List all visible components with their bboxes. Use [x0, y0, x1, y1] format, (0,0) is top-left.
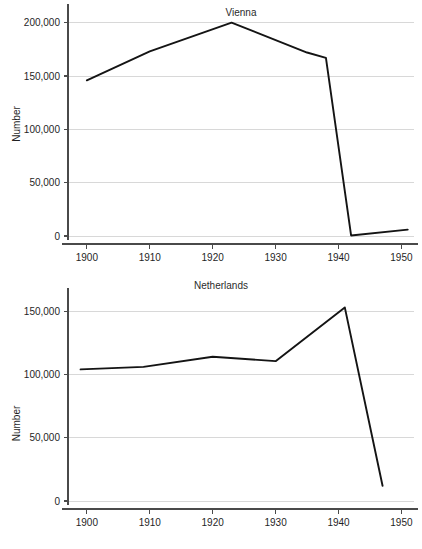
x-tick-label: 1920 — [202, 517, 225, 528]
y-axis-title: Number — [11, 405, 22, 441]
y-tick-label: 150,000 — [24, 306, 61, 317]
y-tick-label: 0 — [54, 231, 60, 242]
chart-panel-vienna: 050,000100,000150,000200,000190019101920… — [0, 0, 422, 275]
x-tick-label: 1900 — [76, 517, 99, 528]
vienna-line-chart: 050,000100,000150,000200,000190019101920… — [0, 0, 422, 275]
x-tick-label: 1920 — [202, 252, 225, 263]
data-line-netherlands — [81, 307, 383, 485]
x-tick-label: 1930 — [264, 252, 287, 263]
x-tick-label: 1900 — [76, 252, 99, 263]
y-tick-label: 100,000 — [24, 124, 61, 135]
x-tick-label: 1950 — [390, 517, 413, 528]
chart-title: Netherlands — [194, 280, 248, 291]
y-tick-label: 50,000 — [29, 177, 60, 188]
y-tick-label: 50,000 — [29, 432, 60, 443]
y-tick-label: 150,000 — [24, 71, 61, 82]
x-tick-label: 1940 — [327, 517, 350, 528]
x-tick-label: 1940 — [327, 252, 350, 263]
x-tick-label: 1910 — [139, 517, 162, 528]
chart-title: Vienna — [226, 7, 257, 18]
chart-panel-netherlands: 050,000100,000150,0001900191019201930194… — [0, 275, 422, 549]
netherlands-line-chart: 050,000100,000150,0001900191019201930194… — [0, 275, 422, 549]
y-tick-label: 200,000 — [24, 17, 61, 28]
y-axis-title: Number — [11, 106, 22, 142]
x-tick-label: 1910 — [139, 252, 162, 263]
y-tick-label: 100,000 — [24, 369, 61, 380]
y-tick-label: 0 — [54, 496, 60, 507]
x-tick-label: 1950 — [390, 252, 413, 263]
x-tick-label: 1930 — [264, 517, 287, 528]
